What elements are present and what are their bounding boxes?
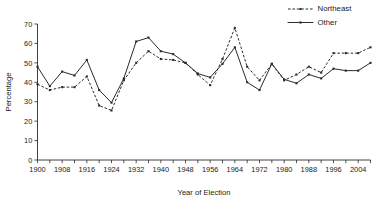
x-tick-label: 1980 — [276, 165, 292, 174]
x-axis-title: Year of Election — [178, 188, 231, 197]
x-tick-label: 1924 — [103, 165, 119, 174]
x-axis: 1900190819161924193219401948195619641972… — [29, 160, 370, 174]
series-line-northeast — [38, 28, 371, 111]
data-point-marker — [49, 85, 51, 87]
x-tick-label: 1948 — [177, 165, 193, 174]
y-tick-label: 40 — [24, 78, 32, 87]
y-tick-label: 50 — [24, 59, 32, 68]
data-point-marker — [345, 70, 347, 72]
data-point-marker — [73, 74, 75, 76]
data-point-marker — [98, 105, 100, 107]
data-point-marker — [221, 58, 223, 60]
x-tick-label: 1996 — [325, 165, 341, 174]
data-point-marker — [234, 27, 236, 29]
data-point-marker — [320, 72, 322, 74]
legend-label-northeast: Northeast — [318, 4, 353, 13]
data-point-marker — [147, 37, 149, 39]
data-point-marker — [369, 62, 371, 64]
data-point-marker — [61, 86, 63, 88]
data-point-marker — [369, 46, 371, 48]
data-point-marker — [258, 89, 260, 91]
chart-figure: 010203040506070 190019081916192419321940… — [0, 0, 378, 204]
data-point-marker — [147, 50, 149, 52]
data-point-marker — [357, 70, 359, 72]
data-point-marker — [110, 102, 112, 104]
data-point-marker — [184, 62, 186, 64]
data-point-marker — [357, 52, 359, 54]
series-line-other — [38, 38, 371, 103]
y-axis-title: Percentage — [4, 73, 13, 112]
data-point-marker — [197, 72, 199, 74]
data-series-group — [36, 27, 371, 112]
y-tick-label: 0 — [28, 156, 32, 165]
data-point-marker — [160, 50, 162, 52]
data-point-marker — [295, 82, 297, 84]
data-point-marker — [36, 66, 38, 68]
data-point-marker — [209, 84, 211, 86]
y-tick-label: 30 — [24, 97, 32, 106]
x-tick-label: 1932 — [128, 165, 144, 174]
data-point-marker — [135, 40, 137, 42]
data-point-marker — [246, 66, 248, 68]
data-point-marker — [332, 68, 334, 70]
x-tick-label: 1916 — [79, 165, 95, 174]
data-point-marker — [36, 83, 38, 85]
x-tick-label: 2004 — [350, 165, 366, 174]
data-point-marker — [172, 59, 174, 61]
data-point-marker — [308, 66, 310, 68]
line-chart: 010203040506070 190019081916192419321940… — [0, 0, 378, 204]
data-point-marker — [295, 73, 297, 75]
data-point-marker — [258, 79, 260, 81]
data-point-marker — [123, 77, 125, 79]
y-axis: 010203040506070 — [24, 20, 37, 165]
data-point-marker — [271, 63, 273, 65]
data-point-marker — [234, 46, 236, 48]
data-point-marker — [86, 75, 88, 77]
x-tick-label: 1964 — [227, 165, 243, 174]
chart-legend: NortheastOther — [288, 4, 352, 27]
data-point-marker — [160, 58, 162, 60]
x-tick-label: 1988 — [301, 165, 317, 174]
data-point-marker — [98, 89, 100, 91]
data-point-marker — [110, 109, 112, 111]
data-point-marker — [308, 73, 310, 75]
y-tick-label: 10 — [24, 136, 32, 145]
data-point-marker — [345, 52, 347, 54]
data-point-marker — [49, 89, 51, 91]
y-tick-label: 60 — [24, 39, 32, 48]
data-point-marker — [320, 77, 322, 79]
legend-marker — [299, 8, 301, 10]
x-tick-label: 1900 — [29, 165, 45, 174]
data-point-marker — [73, 86, 75, 88]
data-point-marker — [209, 76, 211, 78]
data-point-marker — [221, 63, 223, 65]
x-tick-label: 1972 — [251, 165, 267, 174]
y-tick-label: 20 — [24, 117, 32, 126]
data-point-marker — [246, 81, 248, 83]
x-tick-label: 1940 — [153, 165, 169, 174]
legend-label-other: Other — [318, 18, 338, 27]
x-tick-label: 1908 — [54, 165, 70, 174]
data-point-marker — [283, 78, 285, 80]
data-point-marker — [172, 53, 174, 55]
y-tick-label: 70 — [24, 20, 32, 29]
data-point-marker — [86, 59, 88, 61]
legend-marker — [299, 21, 301, 23]
data-point-marker — [135, 62, 137, 64]
data-point-marker — [332, 52, 334, 54]
x-tick-label: 1956 — [202, 165, 218, 174]
data-point-marker — [61, 71, 63, 73]
